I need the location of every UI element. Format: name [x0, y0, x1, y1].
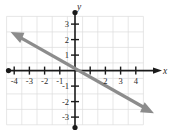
graph-canvas: -4 -3 -2 -1 2 3 4 3 2 1 -1 -2 -3 x y	[0, 0, 171, 134]
y-tick-label-neg3: -3	[62, 112, 69, 122]
x-tick-label-pos4: 4	[134, 76, 139, 86]
x-tick-label-pos3: 3	[118, 76, 122, 86]
x-axis-label: x	[162, 66, 168, 76]
y-axis-label: y	[76, 2, 82, 12]
x-tick-label-pos2: 2	[103, 76, 107, 86]
coordinate-plane-graph: -4 -3 -2 -1 2 3 4 3 2 1 -1 -2 -3 x y	[0, 0, 171, 134]
y-tick-label-neg2: -2	[62, 97, 69, 107]
y-axis-bottom-cap	[72, 125, 77, 130]
y-tick-label-pos1: 1	[65, 50, 69, 60]
x-tick-label-neg2: -2	[41, 76, 48, 86]
x-axis-left-cap	[6, 68, 11, 73]
x-axis-right-arrow	[153, 67, 162, 73]
y-tick-label-pos2: 2	[65, 35, 69, 45]
line-left-arrowhead	[11, 32, 25, 43]
y-tick-label-neg1: -1	[62, 81, 69, 91]
x-tick-label-neg3: -3	[26, 76, 33, 86]
line-right-arrowhead	[140, 102, 154, 113]
y-tick-label-pos3: 3	[65, 19, 69, 29]
x-tick-label-neg4: -4	[11, 76, 19, 86]
